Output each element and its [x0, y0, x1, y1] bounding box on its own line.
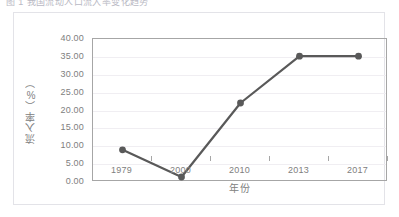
y-axis-tick-label: 40.00: [40, 33, 84, 43]
plot-area: [92, 38, 387, 181]
data-point-marker[interactable]: [237, 100, 244, 107]
y-axis-tick-label: 15.00: [40, 122, 84, 132]
x-axis-tick-label: 2017: [335, 165, 381, 175]
data-point-marker[interactable]: [119, 146, 126, 153]
data-point-marker[interactable]: [296, 53, 303, 60]
x-axis-tick-label: 2000: [158, 165, 204, 175]
clipped-caption-strip: 图 1 我国流动人口流入率变化趋势: [0, 0, 399, 9]
x-axis-tickmark: [151, 156, 152, 161]
line-series-svg: [93, 39, 388, 182]
x-axis-tickmark: [92, 156, 93, 161]
data-point-marker[interactable]: [355, 53, 362, 60]
series-line: [123, 56, 359, 177]
y-axis-tick-label: 0.00: [40, 176, 84, 186]
y-axis-tick-label: 30.00: [40, 69, 84, 79]
y-axis-tick-label: 25.00: [40, 87, 84, 97]
clipped-caption-text: 图 1 我国流动人口流入率变化趋势: [6, 0, 149, 8]
x-axis-tick-label: 1979: [99, 165, 145, 175]
x-axis-tickmark: [328, 156, 329, 161]
y-axis-tick-label: 35.00: [40, 51, 84, 61]
x-axis-tick-label: 2013: [276, 165, 322, 175]
x-axis-title: 年份: [92, 180, 387, 195]
y-axis-tick-label: 5.00: [40, 158, 84, 168]
y-axis-title: 流入率（%）: [22, 53, 40, 168]
x-axis-tickmark: [387, 156, 388, 161]
x-axis-tickmark: [269, 156, 270, 161]
y-axis-tick-label: 20.00: [40, 105, 84, 115]
chart-frame: 流入率（%） 40.0035.0030.0025.0020.0015.0010.…: [13, 12, 385, 205]
series-markers: [119, 53, 362, 181]
y-axis-tick-label: 10.00: [40, 140, 84, 150]
x-axis-tick-label: 2010: [217, 165, 263, 175]
x-axis-tickmark: [210, 156, 211, 161]
